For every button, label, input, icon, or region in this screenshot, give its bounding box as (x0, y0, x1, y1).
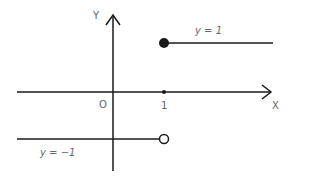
origin-label: O (99, 100, 107, 110)
x-tick-1-dot (162, 90, 166, 94)
y-axis-label: Y (93, 11, 99, 21)
closed-endpoint-dot (159, 38, 169, 48)
open-endpoint-circle (160, 135, 169, 144)
segment-label-lower: y = −1 (40, 148, 75, 158)
segment-label-upper: y = 1 (195, 26, 222, 36)
x-axis-label: X (272, 101, 279, 111)
x-tick-label: 1 (161, 101, 167, 111)
